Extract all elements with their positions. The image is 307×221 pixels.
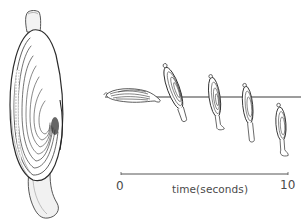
time-axis xyxy=(121,172,288,175)
burrowing-stage-3 xyxy=(206,74,225,131)
axis-end-label: 10 xyxy=(280,179,295,191)
burrowing-stage-5 xyxy=(274,103,288,157)
burrowing-stage-4 xyxy=(240,83,256,143)
axis-start-label: 0 xyxy=(116,180,124,192)
burrowing-stage-2 xyxy=(159,62,191,124)
axis-title: time(seconds) xyxy=(172,184,248,195)
large-clam-illustration xyxy=(10,11,63,219)
clam-burrowing-diagram xyxy=(0,0,307,221)
burrowing-stage-1 xyxy=(104,89,160,103)
